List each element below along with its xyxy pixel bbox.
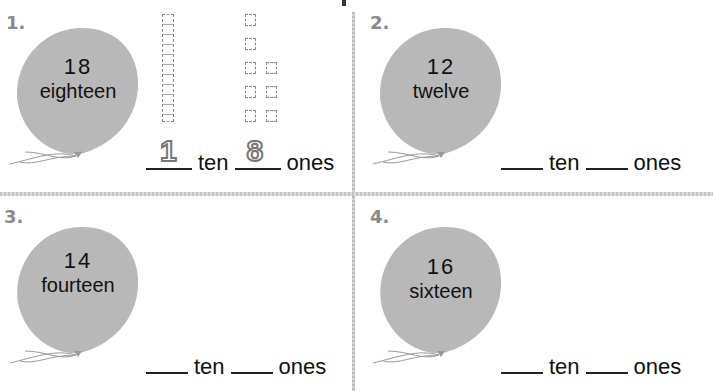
answer-line: tenones [495, 354, 681, 380]
tens-blank[interactable] [501, 354, 543, 374]
balloon-word: fourteen [18, 274, 138, 297]
ones-cube [266, 86, 277, 98]
tens-blank[interactable] [501, 150, 543, 170]
ones-cube [266, 62, 277, 74]
balloon-word: twelve [381, 80, 501, 103]
tens-label: ten [549, 150, 580, 175]
balloon-numeral: 12 [381, 54, 501, 80]
answer-line: tenones [495, 150, 681, 176]
tens-rod-model [162, 14, 174, 122]
ones-blank[interactable] [586, 150, 628, 170]
balloon-numeral: 14 [18, 248, 138, 274]
problem-3: 3. 14 fourteen tenones [0, 196, 352, 391]
ones-cube [266, 110, 277, 122]
problem-1: 1. 18 eighteen 1ten8ones [0, 0, 352, 192]
tens-blank[interactable]: 1 [146, 150, 192, 170]
ones-blank[interactable]: 8 [235, 150, 281, 170]
ones-label: ones [287, 150, 335, 175]
balloon-word: eighteen [18, 80, 138, 103]
ones-cube [245, 14, 256, 26]
balloon-word: sixteen [381, 280, 501, 303]
ones-traced-digit: 8 [247, 134, 264, 168]
tens-label: ten [198, 150, 229, 175]
ones-label: ones [634, 150, 682, 175]
ones-label: ones [634, 354, 682, 379]
tens-blank[interactable] [146, 354, 188, 374]
ones-blank[interactable] [231, 354, 273, 374]
ones-cube [245, 110, 256, 122]
ones-blank[interactable] [586, 354, 628, 374]
tens-label: ten [194, 354, 225, 379]
ones-cube [245, 38, 256, 50]
problem-2: 2. 12 twelve tenones [355, 0, 713, 192]
ones-cube [245, 62, 256, 74]
ones-label: ones [279, 354, 327, 379]
balloon-label: 12 twelve [381, 54, 501, 103]
balloon-numeral: 18 [18, 54, 138, 80]
balloon-label: 16 sixteen [381, 254, 501, 303]
balloon-label: 18 eighteen [18, 54, 138, 103]
balloon-label: 14 fourteen [18, 248, 138, 297]
tens-label: ten [549, 354, 580, 379]
answer-line: tenones [140, 354, 326, 380]
ones-cube [245, 86, 256, 98]
problem-4: 4. 16 sixteen tenones [355, 196, 713, 391]
tens-traced-digit: 1 [160, 134, 177, 168]
balloon-numeral: 16 [381, 254, 501, 280]
answer-line: 1ten8ones [140, 150, 334, 176]
